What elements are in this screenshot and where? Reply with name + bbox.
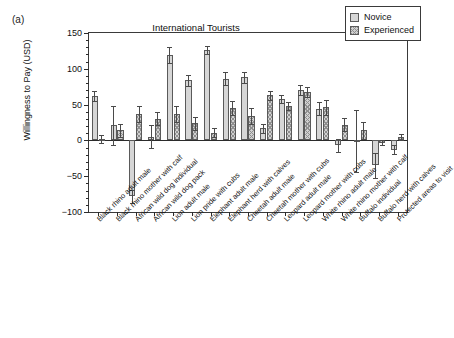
error-bar-cap <box>223 85 228 86</box>
legend-swatch-novice <box>350 13 359 22</box>
y-tick <box>84 105 89 106</box>
y-tick-minor <box>86 76 89 77</box>
error-bar-cap <box>279 95 284 96</box>
error-bar-cap <box>174 122 179 123</box>
error-bar-cap <box>317 102 322 103</box>
bar-novice-0 <box>92 96 98 140</box>
error-bar <box>363 122 364 139</box>
y-tick <box>84 33 89 34</box>
error-bar-cap <box>155 112 160 113</box>
error-bar-cap <box>118 124 123 125</box>
legend-item-experienced: Experienced <box>350 24 414 36</box>
error-bar-cap <box>230 115 235 116</box>
error-bar-cap <box>298 85 303 86</box>
error-bar <box>225 72 226 85</box>
bar-novice-6 <box>204 50 210 140</box>
error-bar-cap <box>92 91 97 92</box>
error-bar <box>157 112 158 125</box>
error-bar-cap <box>392 145 397 146</box>
error-bar-cap <box>205 46 210 47</box>
error-bar <box>244 72 245 83</box>
error-bar-cap <box>361 139 366 140</box>
error-bar-cap <box>380 145 385 146</box>
error-bar-cap <box>268 100 273 101</box>
error-bar-cap <box>298 95 303 96</box>
y-tick-minor <box>86 191 89 192</box>
y-tick-label: −100 <box>62 207 82 217</box>
error-bar <box>288 102 289 109</box>
y-tick <box>84 140 89 141</box>
error-bar-cap <box>149 148 154 149</box>
y-tick-minor <box>86 126 89 127</box>
error-bar-cap <box>111 145 116 146</box>
y-tick-minor <box>86 62 89 63</box>
error-bar-cap <box>186 86 191 87</box>
error-bar-cap <box>111 106 116 107</box>
y-axis-label: Willingness to Pay (USD) <box>22 20 32 160</box>
error-bar <box>281 95 282 104</box>
legend-label: Novice <box>364 12 392 22</box>
error-bar-cap <box>399 134 404 135</box>
error-bar <box>176 106 177 122</box>
error-bar <box>151 125 152 148</box>
error-bar-cap <box>212 137 217 138</box>
bar-experienced-10 <box>286 106 292 140</box>
error-bar <box>300 85 301 95</box>
y-tick-minor <box>86 54 89 55</box>
error-bar-cap <box>399 140 404 141</box>
bar-novice-4 <box>167 55 173 140</box>
error-bar-cap <box>336 139 341 140</box>
error-bar <box>263 124 264 133</box>
y-tick-label: 100 <box>67 64 82 74</box>
error-bar-cap <box>305 87 310 88</box>
error-bar-cap <box>167 47 172 48</box>
error-bar-cap <box>193 117 198 118</box>
error-bar <box>94 91 95 101</box>
y-tick-label: −50 <box>67 171 82 181</box>
y-tick-minor <box>86 83 89 84</box>
error-bar <box>120 124 121 137</box>
error-bar-cap <box>174 106 179 107</box>
y-tick-label: 50 <box>72 100 82 110</box>
error-bar <box>307 87 308 97</box>
error-bar-cap <box>324 100 329 101</box>
y-tick-minor <box>86 112 89 113</box>
error-bar-cap <box>373 153 378 154</box>
error-bar <box>338 139 339 152</box>
error-bar-cap <box>361 122 366 123</box>
error-bar-cap <box>155 125 160 126</box>
bar-novice-7 <box>223 79 229 141</box>
error-bar <box>326 100 327 114</box>
error-bar-cap <box>249 108 254 109</box>
error-bar-cap <box>342 131 347 132</box>
error-bar <box>169 47 170 63</box>
error-bar-cap <box>342 118 347 119</box>
error-bar-cap <box>279 103 284 104</box>
error-bar-cap <box>261 124 266 125</box>
error-bar <box>101 135 102 142</box>
error-bar <box>394 145 395 154</box>
y-tick-minor <box>86 47 89 48</box>
y-tick <box>84 69 89 70</box>
error-bar <box>113 106 114 145</box>
error-bar-cap <box>268 91 273 92</box>
y-tick-label: 0 <box>77 135 82 145</box>
y-tick-minor <box>86 97 89 98</box>
error-bar-cap <box>99 135 104 136</box>
error-bar-cap <box>380 140 385 141</box>
bar-experienced-9 <box>267 95 273 140</box>
error-bar-cap <box>336 152 341 153</box>
y-tick-minor <box>86 119 89 120</box>
error-bar-cap <box>286 110 291 111</box>
error-bar-cap <box>118 137 123 138</box>
y-tick <box>84 176 89 177</box>
error-bar-cap <box>205 54 210 55</box>
y-tick-minor <box>86 162 89 163</box>
error-bar <box>207 46 208 55</box>
error-bar-cap <box>230 101 235 102</box>
y-tick-label: 150 <box>67 28 82 38</box>
error-bar-cap <box>99 143 104 144</box>
error-bar-cap <box>186 75 191 76</box>
error-bar-cap <box>167 63 172 64</box>
